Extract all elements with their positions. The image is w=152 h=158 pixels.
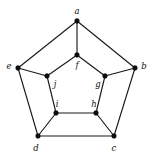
- edge-layer: [18, 21, 135, 136]
- vertex-label-j: j: [54, 80, 57, 89]
- vertex-label-a: a: [74, 7, 79, 16]
- graph-edge-bc: [114, 68, 135, 136]
- graph-vertex-j: [45, 74, 50, 79]
- graph-vertex-f: [75, 53, 80, 58]
- graph-edge-fg: [77, 55, 105, 76]
- vertex-label-c: c: [112, 144, 117, 153]
- vertex-label-i: i: [56, 100, 59, 109]
- vertex-label-b: b: [141, 62, 146, 71]
- vertex-label-g: g: [95, 80, 100, 89]
- graph-vertex-c: [112, 134, 117, 139]
- graph-vertex-i: [54, 111, 59, 116]
- graph-vertex-e: [16, 66, 21, 71]
- graph-vertex-h: [94, 111, 99, 116]
- vertex-label-d: d: [33, 144, 38, 153]
- graph-edge-ej: [18, 68, 47, 76]
- graph-edge-bg: [105, 68, 135, 76]
- graph-vertex-d: [36, 134, 41, 139]
- vertex-label-h: h: [91, 100, 96, 109]
- vertex-label-e: e: [6, 62, 11, 71]
- graph-vertex-a: [75, 19, 80, 24]
- graph-edge-di: [38, 113, 56, 136]
- graph-edge-jf: [47, 55, 77, 76]
- graph-edge-ch: [96, 113, 114, 136]
- graph-vertex-b: [133, 66, 138, 71]
- graph-edge-de: [18, 68, 38, 136]
- graph-vertex-g: [103, 74, 108, 79]
- graph-diagram: abcdefghij: [0, 0, 152, 158]
- vertex-label-f: f: [75, 61, 78, 70]
- graph-canvas: [0, 0, 152, 158]
